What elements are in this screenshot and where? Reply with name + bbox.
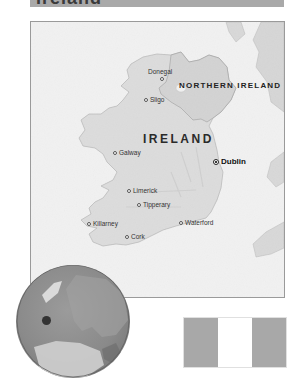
ireland-map-shape: [31, 22, 284, 297]
page-title: Ireland: [36, 0, 102, 7]
city-label-waterford: Waterford: [185, 220, 213, 227]
city-marker-icon: [137, 203, 141, 207]
city-marker-icon: [160, 77, 164, 81]
country-label-ireland: IRELAND: [143, 133, 214, 145]
capital-marker-icon: [213, 159, 219, 165]
city-marker-icon: [179, 221, 183, 225]
city-label-tipperary: Tipperary: [143, 202, 170, 209]
map-frame: NORTHERN IRELAND IRELAND Dublin Donegal …: [30, 21, 285, 298]
city-label-cork: Cork: [131, 234, 145, 241]
city-label-dublin: Dublin: [221, 158, 246, 166]
flag-stripe-orange: [252, 318, 286, 367]
city-marker-icon: [113, 151, 117, 155]
city-marker-icon: [127, 189, 131, 193]
city-marker-icon: [144, 98, 148, 102]
location-marker-icon: [42, 316, 51, 325]
city-marker-icon: [87, 222, 91, 226]
city-label-sligo: Sligo: [150, 97, 164, 104]
flag-stripe-white: [218, 318, 252, 367]
country-label-northern-ireland: NORTHERN IRELAND: [179, 82, 281, 90]
globe-continents: [16, 265, 130, 378]
flag-stripe-green: [184, 318, 218, 367]
city-label-galway: Galway: [119, 150, 141, 157]
locator-globe: [16, 265, 130, 378]
city-marker-icon: [125, 235, 129, 239]
city-label-limerick: Limerick: [133, 188, 157, 195]
city-label-donegal: Donegal: [148, 69, 172, 76]
flag-of-ireland: [183, 317, 287, 368]
title-bar: Ireland: [30, 0, 284, 7]
city-label-killarney: Killarney: [93, 221, 118, 228]
